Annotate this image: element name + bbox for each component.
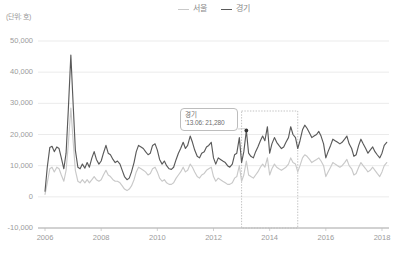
- x-axis-tick-label: 2010: [137, 233, 177, 242]
- y-axis-tick-label: 30,000: [10, 98, 33, 107]
- x-axis-tick-label: 2018: [362, 233, 393, 242]
- y-axis-tick-label: 40,000: [10, 67, 33, 76]
- chart-container: (단위: 호) 서울 경기 경기 '13.06: 21,280 50,00040…: [0, 0, 393, 262]
- y-axis-tick-label: 20,000: [10, 130, 33, 139]
- tooltip-title: 경기: [185, 111, 233, 119]
- x-axis-tick-label: 2006: [25, 233, 65, 242]
- y-axis-tick-label: -10,000: [8, 223, 33, 232]
- y-axis-tick-label: 50,000: [10, 36, 33, 45]
- x-axis-tick-label: 2008: [81, 233, 121, 242]
- x-axis-tick-label: 2012: [194, 233, 234, 242]
- x-axis-tick-label: 2014: [250, 233, 290, 242]
- highlight-region-box: [242, 111, 298, 228]
- y-axis-tick-label: 0: [29, 192, 33, 201]
- data-tooltip: 경기 '13.06: 21,280: [180, 108, 238, 131]
- y-axis-tick-label: 10,000: [10, 161, 33, 170]
- tooltip-value: '13.06: 21,280: [185, 119, 233, 127]
- tooltip-marker-dot: [244, 129, 248, 133]
- x-axis-tick-label: 2016: [306, 233, 346, 242]
